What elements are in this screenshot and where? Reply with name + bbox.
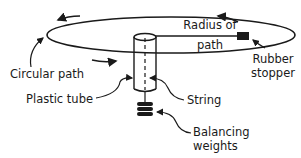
- label-balancing-weights: Balancing weights: [193, 125, 250, 153]
- circular-motion-diagram: Radius of path Circular path Rubber stop…: [0, 0, 301, 158]
- motion-arrow-bottom-left: [92, 60, 116, 62]
- label-rubber-stopper-line1: Rubber: [246, 52, 300, 66]
- leader-rubber-stopper: [253, 40, 265, 48]
- label-plastic-tube: Plastic tube: [26, 92, 93, 106]
- label-circular-path: Circular path: [10, 67, 84, 81]
- label-balancing-line1: Balancing: [193, 125, 250, 139]
- leader-circular-path: [31, 38, 44, 67]
- label-string: String: [187, 93, 221, 107]
- motion-arrow-top-left: [58, 16, 80, 20]
- label-radius-line1: Radius of: [176, 18, 244, 32]
- balancing-weights: [137, 102, 153, 116]
- leader-balancing-weights: [157, 112, 191, 133]
- label-rubber-stopper-line2: stopper: [246, 66, 300, 80]
- label-rubber-stopper: Rubber stopper: [246, 52, 300, 80]
- label-balancing-line2: weights: [193, 139, 250, 153]
- leader-plastic-tube: [96, 78, 132, 98]
- label-radius-line2: path: [176, 38, 244, 52]
- label-radius-of-path: Radius of path: [176, 18, 244, 52]
- circular-path-ellipse: [47, 17, 295, 53]
